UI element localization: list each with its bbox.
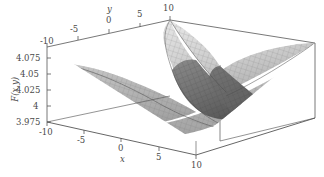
y-tick-label-1: -5 bbox=[70, 25, 78, 34]
z-tick-label-0: 4.075 bbox=[16, 54, 40, 63]
x-tick-label-2: 0 bbox=[118, 144, 123, 153]
y-tick-label-3: 5 bbox=[137, 10, 142, 19]
x-tick-label-3: 5 bbox=[156, 153, 161, 162]
z-axis-title: F(x,y) bbox=[11, 69, 20, 109]
y-tick-label-2: 0 bbox=[106, 16, 111, 25]
x-tick-label-1: -5 bbox=[77, 136, 85, 145]
surface-mesh bbox=[47, 20, 315, 138]
z-tick-label-4: 3.975 bbox=[16, 118, 40, 127]
x-tick-label-0: -10 bbox=[39, 128, 53, 137]
y-tick-label-4: 10 bbox=[163, 4, 174, 13]
z-tick-label-3: 4 bbox=[33, 102, 38, 111]
y-axis-title: y bbox=[107, 5, 112, 14]
x-tick-label-4: 10 bbox=[191, 161, 202, 170]
tick-marks-z-left bbox=[47, 58, 51, 122]
plot-canvas bbox=[0, 0, 324, 177]
y-tick-label-0: -10 bbox=[40, 37, 54, 46]
surface-plot-figure: -10 -5 0 5 10 y -10 -5 0 5 10 x 4.075 4.… bbox=[0, 0, 324, 177]
z-tick-label-1: 4.05 bbox=[20, 70, 39, 79]
x-axis-title: x bbox=[120, 155, 125, 164]
